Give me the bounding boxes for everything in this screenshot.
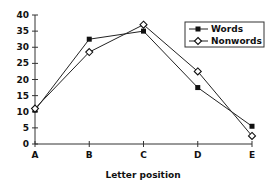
y-axis: 0510152025303540 [16,10,38,149]
x-tick-label: D [194,150,201,160]
filled-square-marker [196,27,201,32]
y-tick-label: 30 [16,42,29,52]
x-tick-label: E [249,150,255,160]
x-axis: ABCDE [32,141,256,160]
x-tick-label: C [140,150,147,160]
legend-label: Words [211,24,243,34]
filled-square-marker [195,85,200,90]
legend-label: Nonwords [211,36,262,46]
x-tick-label: B [86,150,93,160]
y-tick-label: 40 [16,10,29,20]
x-axis-title: Letter position [105,170,180,180]
y-tick-label: 35 [16,26,29,36]
x-tick-label: A [32,150,39,160]
filled-square-marker [87,37,92,42]
line-chart: 0510152025303540 ABCDE Letter position W… [0,0,270,184]
filled-square-marker [250,124,255,129]
y-tick-label: 0 [23,139,29,149]
y-tick-label: 15 [16,91,29,101]
legend: WordsNonwords [185,22,264,47]
y-tick-label: 5 [23,123,29,133]
filled-square-marker [141,29,146,34]
y-tick-label: 25 [16,58,29,68]
y-tick-label: 20 [16,75,29,85]
y-tick-label: 10 [16,107,29,117]
